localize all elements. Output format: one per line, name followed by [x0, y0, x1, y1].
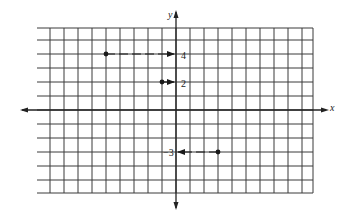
x-axis-left-arrow-icon — [20, 108, 28, 113]
y-axis-down-arrow-icon — [174, 202, 179, 210]
coordinate-plane — [0, 0, 352, 219]
x-axis-right-arrow-icon — [321, 108, 329, 113]
tick-label-2: 2 — [181, 79, 186, 89]
data-point — [216, 150, 221, 155]
y-axis-label: y — [168, 10, 172, 20]
data-point — [104, 52, 109, 57]
x-axis-label: x — [330, 103, 334, 113]
y-axis-up-arrow-icon — [174, 10, 179, 18]
tick-label-4: 4 — [181, 51, 186, 61]
data-point — [160, 80, 165, 85]
tick-label-neg3: −3 — [163, 148, 174, 158]
